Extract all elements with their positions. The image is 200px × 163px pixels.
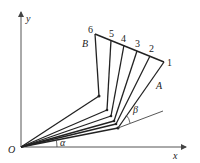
position-label-6: 6 [88, 24, 93, 35]
origin-label: O [8, 144, 15, 155]
link-4-upper [111, 45, 124, 116]
joint-6 [98, 95, 101, 98]
x-axis-label: x [172, 150, 178, 161]
link-5-upper [107, 40, 111, 110]
link-1-upper [118, 62, 164, 128]
position-label-4: 4 [121, 33, 126, 44]
point-a-label: A [155, 80, 163, 91]
y-axis-label: y [25, 13, 31, 24]
joint-3 [113, 120, 116, 123]
position-label-3: 3 [135, 38, 140, 49]
point-b-label: B [82, 38, 88, 49]
joint-5 [106, 109, 109, 112]
joint-2 [115, 123, 118, 126]
joint-4 [110, 115, 113, 118]
linkage-diagram: y x O B A α β 6 5 4 3 2 1 [0, 0, 200, 163]
position-label-2: 2 [149, 43, 154, 54]
position-label-1: 1 [167, 57, 172, 68]
beta-label: β [132, 104, 138, 115]
position-label-5: 5 [109, 28, 114, 39]
alpha-label: α [60, 137, 66, 148]
beta-reference-line [118, 111, 163, 128]
link-6-upper [95, 34, 99, 96]
